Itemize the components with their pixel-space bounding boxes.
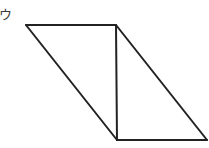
- parallelogram-diagram: [0, 0, 209, 148]
- left-slanted-edge: [26, 25, 117, 140]
- right-slanted-edge: [116, 25, 207, 140]
- vertical-divider: [116, 25, 117, 140]
